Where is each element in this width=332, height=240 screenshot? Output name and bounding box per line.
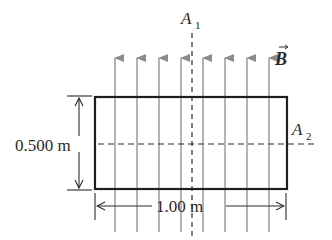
magnetic-field-label: B — [274, 45, 288, 69]
svg-text:A: A — [180, 9, 192, 28]
svg-text:2: 2 — [306, 130, 312, 142]
height-label: 0.500 m — [15, 136, 71, 155]
axis-a1-label: A 1 — [180, 9, 201, 31]
height-dimension — [67, 96, 92, 190]
svg-text:B: B — [274, 49, 287, 69]
current-loop — [95, 97, 287, 189]
svg-text:1: 1 — [195, 19, 201, 31]
magnetic-loop-diagram: 0.500 m 1.00 m A 1 A 2 B — [0, 0, 332, 240]
width-label: 1.00 m — [156, 197, 203, 216]
axis-a2-label: A 2 — [291, 120, 312, 142]
svg-text:A: A — [291, 120, 303, 139]
